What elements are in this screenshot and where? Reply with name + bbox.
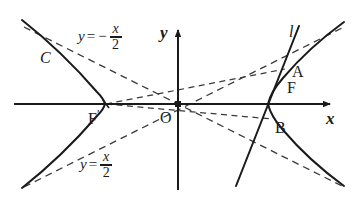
asymptote-upper-denominator: 2	[110, 38, 121, 52]
asymptote-upper-lhs: y	[78, 29, 85, 44]
asymptote-upper-sign: −	[97, 29, 107, 44]
asymptote-upper-fraction: x 2	[110, 22, 122, 52]
segment-f-prime-to-a	[106, 69, 285, 104]
focus-right-label: F	[287, 80, 296, 96]
asymptote-lower-fraction: x 2	[100, 150, 112, 180]
point-b-label: B	[275, 120, 286, 136]
curve-c-label: C	[40, 50, 51, 66]
point-a-label: A	[292, 64, 304, 80]
asymptote-upper-numerator: x	[111, 22, 121, 36]
asymptote-lower-equation: y = x 2	[80, 150, 113, 180]
asymptote-upper-equation: y = − x 2	[78, 22, 123, 52]
segment-f-prime-to-b	[106, 104, 272, 119]
focus-left-label: F′	[88, 108, 100, 127]
line-l	[236, 26, 299, 186]
asymptote-upper-equals: =	[86, 29, 96, 44]
origin-marker	[175, 101, 181, 107]
y-axis-label: y	[160, 24, 168, 41]
asymptote-lower-denominator: 2	[101, 166, 112, 180]
hyperbola-diagram: y x O C l F′ F A B y = − x 2 y = x 2	[0, 0, 355, 201]
asymptote-lower-equals: =	[88, 157, 98, 172]
focus-left-prime: ′	[97, 107, 100, 121]
diagram-canvas	[0, 0, 355, 201]
asymptote-lower-numerator: x	[101, 150, 111, 164]
line-l-label: l	[289, 24, 293, 40]
x-axis-label: x	[326, 110, 335, 127]
focus-left-letter: F	[88, 110, 97, 127]
asymptote-lower-lhs: y	[80, 157, 87, 172]
origin-label: O	[160, 110, 172, 126]
